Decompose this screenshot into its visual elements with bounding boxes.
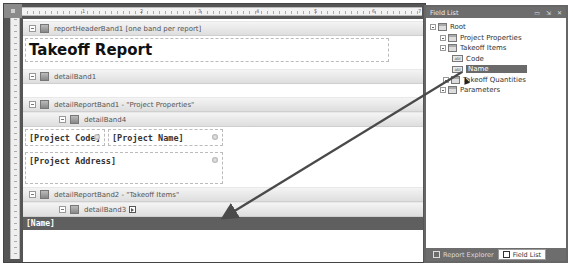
band-icon <box>70 205 79 214</box>
name-field-bar[interactable]: [Name] <box>23 217 423 230</box>
pin-icon[interactable]: ⇲ <box>546 9 551 16</box>
tree-node-root[interactable]: Root <box>430 22 566 33</box>
band-icon <box>40 190 49 199</box>
collapse-icon[interactable] <box>59 206 66 213</box>
ruler-corner <box>4 4 22 18</box>
ruler-tick: 2 <box>140 8 143 14</box>
field-list-titlebar: Field List ▭ ⇲ ✕ <box>426 7 566 18</box>
minimize-icon[interactable]: ▭ <box>534 9 540 16</box>
field-icon: abl <box>452 55 463 62</box>
design-surface[interactable]: reportHeaderBand1 [one band per report] … <box>23 19 423 262</box>
table-icon <box>448 44 457 52</box>
ruler-tick: 3 <box>198 8 201 14</box>
collapse-icon[interactable] <box>29 101 36 108</box>
horizontal-ruler: 1 2 3 4 5 6 7 <box>22 7 422 16</box>
band-detail-1[interactable]: detailBand1 <box>23 69 423 84</box>
field-text: [Project Address] <box>29 156 116 166</box>
panel-tabs: Report Explorer Field List <box>426 248 566 261</box>
parameters-icon <box>448 86 457 94</box>
band-detail-3[interactable]: detailBand3 <box>23 202 423 217</box>
tree-node-takeoff-quantities[interactable]: Takeoff Quantities <box>430 75 566 86</box>
field-text: [Project Name] <box>112 133 184 143</box>
project-code-field[interactable]: [Project Code] <box>25 129 105 146</box>
tree-node-code[interactable]: abl Code <box>430 54 566 65</box>
tab-field-list[interactable]: Field List <box>498 249 546 260</box>
band-label: detailReportBand2 - "Takeoff Items" <box>54 191 179 199</box>
field-list-panel: Field List ▭ ⇲ ✕ Root Project Properties… <box>424 5 568 263</box>
ruler-tick: 6 <box>372 8 375 14</box>
expand-icon[interactable] <box>443 77 449 83</box>
field-list-icon <box>503 251 510 258</box>
ruler-tick: 4 <box>256 8 259 14</box>
data-binding-icon <box>94 134 100 140</box>
band-label: detailReportBand1 - "Project Properties" <box>54 101 194 109</box>
table-icon <box>438 23 447 31</box>
band-report-header[interactable]: reportHeaderBand1 [one band per report] <box>23 21 423 36</box>
report-explorer-icon <box>433 251 440 258</box>
tree-node-parameters[interactable]: Parameters <box>430 85 566 96</box>
project-address-field[interactable]: [Project Address] <box>25 152 223 184</box>
table-icon <box>451 76 460 84</box>
band-label: detailBand1 <box>54 73 96 81</box>
vertical-ruler <box>10 18 20 259</box>
collapse-icon[interactable] <box>440 45 446 51</box>
collapse-icon[interactable] <box>29 191 36 198</box>
band-detail-report-2[interactable]: detailReportBand2 - "Takeoff Items" <box>23 187 423 202</box>
tree-node-project-properties[interactable]: Project Properties <box>430 33 566 44</box>
field-text: [Project Code] <box>29 133 101 143</box>
band-icon <box>40 24 49 33</box>
collapse-icon[interactable] <box>29 25 36 32</box>
field-icon: abl <box>452 66 463 73</box>
collapse-icon[interactable] <box>430 24 436 30</box>
expand-icon[interactable] <box>440 87 446 93</box>
tab-report-explorer[interactable]: Report Explorer <box>429 249 498 260</box>
ruler-tick: 5 <box>314 8 317 14</box>
band-label: detailBand3 <box>84 206 126 214</box>
expand-icon[interactable] <box>440 35 446 41</box>
band-detail-4[interactable]: detailBand4 <box>23 112 423 127</box>
band-label: reportHeaderBand1 [one band per report] <box>54 25 201 33</box>
tree-node-name[interactable]: abl Name <box>430 64 566 75</box>
band-label: detailBand4 <box>84 116 126 124</box>
smart-tag-icon[interactable] <box>129 206 136 213</box>
project-name-field[interactable]: [Project Name] <box>108 129 223 146</box>
close-icon[interactable]: ✕ <box>557 9 562 16</box>
ruler-tick: 1 <box>82 8 85 14</box>
band-detail-report-1[interactable]: detailReportBand1 - "Project Properties" <box>23 97 423 112</box>
band-icon <box>40 100 49 109</box>
panel-title: Field List <box>430 9 458 17</box>
collapse-icon[interactable] <box>29 73 36 80</box>
band-icon <box>40 72 49 81</box>
band-icon <box>70 115 79 124</box>
collapse-icon[interactable] <box>59 116 66 123</box>
data-binding-icon <box>212 157 218 163</box>
title-label[interactable]: Takeoff Report <box>25 38 389 62</box>
tree-node-takeoff-items[interactable]: Takeoff Items <box>430 43 566 54</box>
table-icon <box>448 34 457 42</box>
field-tree: Root Project Properties Takeoff Items ab… <box>426 18 566 96</box>
ruler-tick: 7 <box>418 8 421 14</box>
report-designer: 1 2 3 4 5 6 7 reportHeaderBand1 [one ban… <box>3 3 426 263</box>
data-binding-icon <box>212 134 218 140</box>
